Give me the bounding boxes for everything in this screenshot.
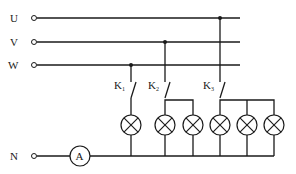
switch-k1 <box>131 82 136 98</box>
line-label-w: W <box>8 59 19 71</box>
ammeter-label: A <box>76 150 84 162</box>
lamp-k3-2 <box>237 115 257 156</box>
switch-label-k2: K2 <box>148 79 159 92</box>
lamp-k2-1 <box>155 115 175 156</box>
lamps-group <box>121 115 284 156</box>
switch-k2 <box>165 82 170 98</box>
line-label-v: V <box>10 36 18 48</box>
lamp-k3-3 <box>264 115 284 156</box>
lamp-k3-1 <box>210 115 230 156</box>
terminal-u <box>32 16 37 21</box>
switch-label-k1: K1 <box>114 79 125 92</box>
lamp-k2-2 <box>183 115 203 156</box>
terminal-v <box>32 40 37 45</box>
terminal-w <box>32 63 37 68</box>
circuit-diagram: U V W N A K1 K2 K3 <box>0 0 296 174</box>
switch-label-k3: K3 <box>203 79 214 92</box>
lamp-k1-1 <box>121 115 141 156</box>
line-label-u: U <box>10 12 18 24</box>
k2-rail <box>165 100 193 115</box>
switch-k3 <box>220 82 225 98</box>
terminal-n <box>32 154 37 159</box>
neutral-label: N <box>10 150 18 162</box>
